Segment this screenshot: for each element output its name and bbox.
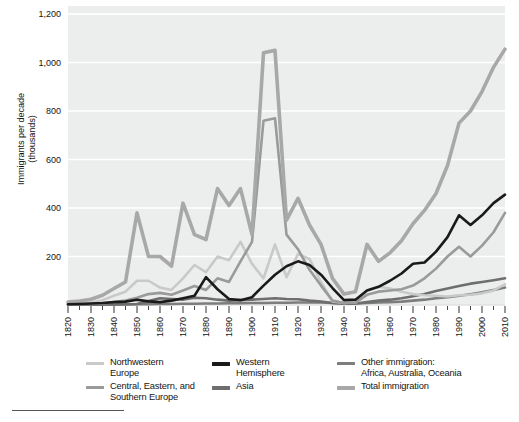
legend-label-other-immigration: Other immigration: Africa, Australia, Oc… [361,357,461,378]
svg-text:1920: 1920 [293,317,303,337]
svg-text:1910: 1910 [270,317,280,337]
x-axis-tick-labels: 1820183018401850186018701880189019001910… [63,317,510,337]
svg-text:1980: 1980 [431,317,441,337]
immigration-chart-figure: Immigrants per decade(thousands) 2004006… [0,0,519,422]
legend-item-western-hemisphere[interactable]: Western Hemisphere [212,357,332,378]
legend-swatch-central-eastern-southern-europe [86,386,104,389]
svg-text:1890: 1890 [224,317,234,337]
legend-item-northwestern-europe[interactable]: Northwestern Europe [86,357,211,378]
legend-swatch-western-hemisphere [212,362,230,366]
svg-text:600: 600 [46,155,61,165]
legend-item-total-immigration[interactable]: Total immigration [337,381,517,392]
chart-plot: 2004006008001,0001,200 18201830184018501… [0,0,519,360]
legend-label-total-immigration: Total immigration [361,381,429,392]
svg-text:1880: 1880 [201,317,211,337]
svg-text:1860: 1860 [155,317,165,337]
svg-text:200: 200 [46,252,61,262]
svg-text:2010: 2010 [500,317,510,337]
x-axis-tick-marks [68,306,505,313]
svg-text:1,000: 1,000 [38,58,61,68]
footnote-rule [12,410,124,411]
svg-text:1990: 1990 [454,317,464,337]
svg-text:1960: 1960 [385,317,395,337]
svg-text:1,200: 1,200 [38,9,61,19]
legend-label-central-eastern-southern-europe: Central, Eastern, and Southern Europe [110,381,195,402]
legend-item-other-immigration[interactable]: Other immigration: Africa, Australia, Oc… [337,357,517,378]
svg-text:800: 800 [46,106,61,116]
svg-text:1970: 1970 [408,317,418,337]
legend-swatch-northwestern-europe [86,362,104,365]
svg-text:1840: 1840 [109,317,119,337]
legend-label-northwestern-europe: Northwestern Europe [110,357,164,378]
svg-text:1900: 1900 [247,317,257,337]
svg-text:1830: 1830 [86,317,96,337]
svg-text:1930: 1930 [316,317,326,337]
legend-item-asia[interactable]: Asia [212,381,332,392]
svg-text:400: 400 [46,203,61,213]
legend-label-asia: Asia [236,381,254,392]
svg-text:1940: 1940 [339,317,349,337]
legend-item-central-eastern-southern-europe[interactable]: Central, Eastern, and Southern Europe [86,381,216,402]
svg-text:1820: 1820 [63,317,73,337]
svg-text:1870: 1870 [178,317,188,337]
plot-background [68,6,505,305]
chart-legend: Northwestern Europe Central, Eastern, an… [0,355,519,407]
legend-swatch-asia [212,386,230,390]
legend-swatch-other-immigration [337,362,355,365]
svg-text:1850: 1850 [132,317,142,337]
svg-text:2000: 2000 [477,317,487,337]
svg-text:1950: 1950 [362,317,372,337]
legend-swatch-total-immigration [337,386,355,390]
y-axis-tick-labels: 2004006008001,0001,200 [38,9,61,262]
legend-label-western-hemisphere: Western Hemisphere [236,357,285,378]
